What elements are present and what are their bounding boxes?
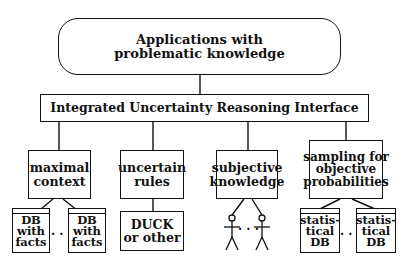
db-with-facts-2: DB with facts — [68, 208, 106, 253]
category-label: subjective — [212, 161, 283, 174]
category-label: objective — [316, 163, 376, 176]
db-label: facts — [71, 237, 102, 248]
category-label: probabilities — [303, 176, 388, 189]
category-label: knowledge — [210, 175, 285, 188]
db-label: DB — [310, 237, 330, 248]
category-label: uncertain — [118, 161, 186, 174]
interface-node: Integrated Uncertainty Reasoning Interfa… — [40, 94, 369, 122]
db-label: DB — [366, 237, 386, 248]
applications-node: Applications with problematic knowledge — [58, 18, 341, 75]
statistical-db-1: statis- tical DB — [300, 208, 340, 253]
interface-label: Integrated Uncertainty Reasoning Interfa… — [50, 101, 358, 114]
category-sampling: sampling for objective probabilities — [309, 140, 383, 199]
duck-node: DUCK or other — [120, 211, 184, 251]
category-uncertain-rules: uncertain rules — [120, 150, 184, 199]
category-label: maximal — [30, 161, 90, 174]
statistical-db-2: statis- tical DB — [356, 208, 396, 253]
ellipsis: · · · — [238, 222, 259, 236]
duck-label: or other — [123, 231, 180, 244]
applications-line2: problematic knowledge — [114, 47, 284, 61]
category-maximal-context: maximal context — [28, 150, 91, 199]
db-label: facts — [15, 237, 46, 248]
category-label: rules — [134, 175, 169, 188]
applications-line1: Applications with — [136, 33, 263, 47]
db-with-facts-1: DB with facts — [12, 208, 50, 253]
category-subjective-knowledge: subjective knowledge — [216, 150, 278, 199]
category-label: context — [34, 175, 86, 188]
